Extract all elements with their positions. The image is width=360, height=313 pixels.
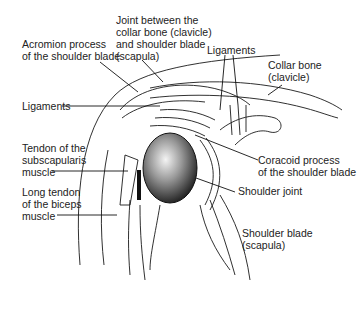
- label-line: collar bone (clavicle): [116, 26, 212, 38]
- label-line: (clavicle): [268, 71, 322, 83]
- label-line: muscle: [22, 166, 86, 178]
- label-line: muscle: [22, 210, 82, 222]
- label-line: of the biceps: [22, 198, 82, 210]
- label-line: Acromion process: [22, 38, 120, 50]
- label-line: Long tendon: [22, 186, 82, 198]
- coracoid-process: [220, 116, 281, 145]
- label-line: Ligaments: [22, 100, 70, 112]
- label-line: Shoulder joint: [238, 185, 302, 197]
- label-acromion: Acromion process of the shoulder blade: [22, 38, 120, 62]
- label-line: and shoulder blade: [116, 38, 212, 50]
- label-ligaments-top: Ligaments: [207, 44, 255, 56]
- label-line: of the shoulder blade: [258, 166, 356, 178]
- label-biceps: Long tendon of the biceps muscle: [22, 186, 82, 222]
- label-line: subscapularis: [22, 154, 86, 166]
- label-line: Joint between the: [116, 14, 212, 26]
- label-line: Shoulder blade: [242, 227, 313, 239]
- label-ac-joint: Joint between the collar bone (clavicle)…: [116, 14, 212, 62]
- label-line: Collar bone: [268, 59, 322, 71]
- label-line: Ligaments: [207, 44, 255, 56]
- label-line: of the shoulder blade: [22, 50, 120, 62]
- label-line: (scapula): [242, 239, 313, 251]
- humeral-head: [143, 133, 197, 203]
- label-coracoid: Coracoid process of the shoulder blade: [258, 154, 356, 178]
- label-ligaments-left: Ligaments: [22, 100, 70, 112]
- label-scapula: Shoulder blade (scapula): [242, 227, 313, 251]
- label-shoulder-joint: Shoulder joint: [238, 185, 302, 197]
- label-line: Coracoid process: [258, 154, 356, 166]
- label-line: Tendon of the: [22, 142, 86, 154]
- label-line: (scapula): [116, 50, 212, 62]
- label-subscapularis: Tendon of the subscapularis muscle: [22, 142, 86, 178]
- label-collar-bone: Collar bone (clavicle): [268, 59, 322, 83]
